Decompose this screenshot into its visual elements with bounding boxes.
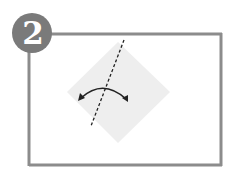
step-number: 2 [13, 13, 53, 53]
